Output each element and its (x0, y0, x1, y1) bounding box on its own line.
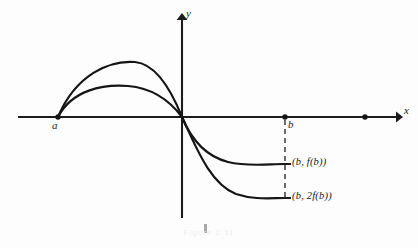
figure-caption: Figure 2.11 (0, 228, 418, 237)
curve-f (58, 62, 285, 165)
x-axis-label: x (404, 105, 409, 116)
x-axis-arrow-icon (396, 112, 403, 123)
point-b-label: b (288, 119, 294, 130)
point-a-label: a (52, 120, 58, 131)
figure-container: a b x y (b, f(b)) (b, 2f(b)) Figure 2.11 (0, 0, 418, 248)
math-plot-svg (0, 0, 418, 248)
y-axis-label: y (186, 8, 191, 19)
curve-2f-endpoint-label: (b, 2f(b)) (292, 191, 332, 202)
x-axis-unlabeled-dot (362, 114, 367, 119)
curve-2f (58, 86, 285, 199)
curve-f-endpoint-label: (b, f(b)) (292, 157, 326, 168)
point-b-dot (282, 114, 287, 119)
